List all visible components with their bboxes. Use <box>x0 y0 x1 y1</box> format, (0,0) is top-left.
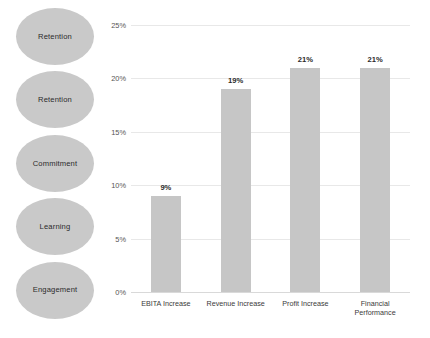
bar-1[interactable]: 19%Revenue Increase <box>221 89 251 292</box>
x-axis-category-label: Profit Increase <box>268 299 342 308</box>
y-axis-tick-label: 10% <box>86 181 126 190</box>
ellipse-node-retention-1: Retention <box>16 71 94 128</box>
ellipse-label: Engagement <box>33 286 78 294</box>
bar-value-label: 19% <box>228 76 243 85</box>
ellipse-stack: RetentionRetentionCommitmentLearningEnga… <box>0 8 110 330</box>
y-axis-tick-label: 5% <box>86 234 126 243</box>
y-axis-tick-label: 0% <box>86 288 126 297</box>
screenshot-root: RetentionRetentionCommitmentLearningEnga… <box>0 0 430 338</box>
bar-value-label: 9% <box>160 183 171 192</box>
y-axis-tick-label: 25% <box>86 21 126 30</box>
bar-3[interactable]: 21%Financial Performance <box>360 68 390 292</box>
bar-0[interactable]: 9%EBITA Increase <box>151 196 181 292</box>
bar-value-label: 21% <box>298 55 313 64</box>
x-axis-category-label: Revenue Increase <box>199 299 273 308</box>
gridline-25% <box>131 25 410 26</box>
ellipse-node-commitment-2: Commitment <box>16 135 94 192</box>
ellipse-label: Retention <box>38 33 72 41</box>
bar-2[interactable]: 21%Profit Increase <box>290 68 320 292</box>
bar-chart: 0%5%10%15%20%25%9%EBITA Increase19%Reven… <box>100 0 430 338</box>
bar-value-label: 21% <box>368 55 383 64</box>
ellipse-node-learning-3: Learning <box>16 198 94 255</box>
ellipse-label: Commitment <box>33 160 78 168</box>
ellipse-label: Learning <box>40 223 71 231</box>
ellipse-label: Retention <box>38 96 72 104</box>
x-axis-line <box>131 292 410 293</box>
ellipse-node-engagement-4: Engagement <box>16 262 94 319</box>
plot-area: 0%5%10%15%20%25%9%EBITA Increase19%Reven… <box>131 25 410 292</box>
y-axis-tick-label: 15% <box>86 127 126 136</box>
ellipse-node-retention-0: Retention <box>16 8 94 65</box>
x-axis-category-label: Financial Performance <box>338 299 412 317</box>
x-axis-category-label: EBITA Increase <box>129 299 203 308</box>
y-axis-tick-label: 20% <box>86 74 126 83</box>
